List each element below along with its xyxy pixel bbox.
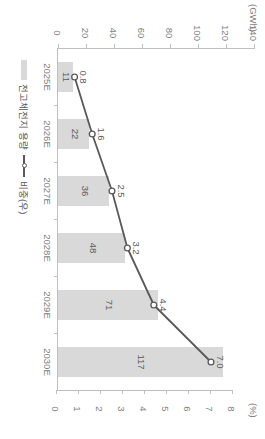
category-label-2027E: 2027E <box>42 170 53 212</box>
share-marker-2025E[interactable] <box>72 74 78 80</box>
category-label-2030E: 2030E <box>42 341 53 383</box>
legend-bar-swatch-icon <box>21 60 27 80</box>
rotated-figure-wrapper: (GWh) 140 120 100 80 60 40 20 0 (%) 8 7 … <box>0 0 265 439</box>
category-label-2029E: 2029E <box>42 284 53 326</box>
legend-label-share: 비중(우) <box>17 181 31 214</box>
point-label-2030E: 7.0 <box>215 347 226 377</box>
point-label-2029E: 4.4 <box>158 290 169 320</box>
share-marker-2028E[interactable] <box>124 245 130 251</box>
category-label-2026E: 2026E <box>42 113 53 155</box>
share-marker-2030E[interactable] <box>208 359 214 365</box>
chart-figure: (GWh) 140 120 100 80 60 40 20 0 (%) 8 7 … <box>0 0 265 439</box>
point-label-2028E: 3.2 <box>131 233 142 263</box>
legend-line-marker-icon <box>20 155 28 177</box>
share-marker-2029E[interactable] <box>151 302 157 308</box>
category-label-2025E: 2025E <box>42 56 53 98</box>
share-marker-2026E[interactable] <box>89 131 95 137</box>
legend-item-share[interactable]: 비중(우) <box>17 155 31 214</box>
share-marker-2027E[interactable] <box>109 188 115 194</box>
point-label-2025E: 0.8 <box>78 62 89 92</box>
point-label-2026E: 1.6 <box>96 119 107 149</box>
legend-label-capacity: 전고체전지 용량 <box>17 84 31 150</box>
legend-item-capacity[interactable]: 전고체전지 용량 <box>17 60 31 150</box>
point-label-2027E: 2.5 <box>116 176 127 206</box>
category-label-2028E: 2028E <box>42 227 53 269</box>
